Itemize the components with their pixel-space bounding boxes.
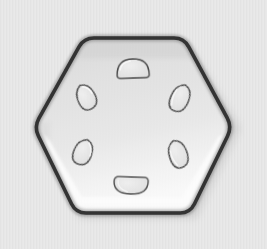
hexagon-macro-illustration <box>0 0 267 249</box>
global-stripe-overlay <box>0 0 267 249</box>
image-canvas <box>0 0 267 249</box>
